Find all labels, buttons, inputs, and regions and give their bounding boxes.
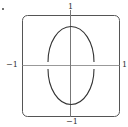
x-max-label: 1 [122,61,127,69]
y-min-label: −1 [66,118,78,126]
y-max-label: 1 [68,3,73,11]
x-min-label: −1 [6,61,18,69]
plot-area [0,0,128,127]
